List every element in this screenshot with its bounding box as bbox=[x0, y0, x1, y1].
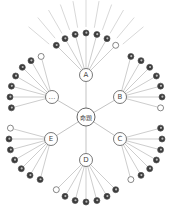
leaf-glyph-icon bbox=[10, 148, 12, 150]
leaf-glyph-icon bbox=[56, 44, 58, 46]
leaf-node-hollow bbox=[158, 105, 164, 111]
hub-to-leaf-line bbox=[89, 41, 105, 69]
top-ray-line bbox=[110, 10, 124, 33]
leaf-glyph-icon bbox=[156, 159, 158, 161]
leaf-node-hollow bbox=[113, 42, 119, 48]
hub-to-leaf-line bbox=[88, 38, 96, 69]
hub-to-leaf-line bbox=[122, 60, 130, 91]
leaf-glyph-icon bbox=[30, 59, 32, 61]
leaf-glyph-icon bbox=[64, 37, 66, 39]
hub-to-leaf-line bbox=[91, 48, 114, 71]
center-node: 命題 bbox=[77, 108, 95, 126]
leaf-node-hollow bbox=[53, 187, 59, 193]
center-to-hub-line bbox=[58, 100, 79, 112]
leaf-glyph-icon bbox=[64, 195, 66, 197]
hub-label: E bbox=[49, 135, 53, 143]
leaf-glyph-icon bbox=[160, 85, 162, 87]
leaf-glyph-icon bbox=[161, 96, 163, 98]
hub-to-leaf-line bbox=[42, 60, 50, 91]
hub-to-leaf-line bbox=[76, 166, 84, 197]
hub-to-leaf-line bbox=[15, 99, 46, 107]
top-ray-line bbox=[102, 5, 111, 30]
leaf-glyph-icon bbox=[74, 33, 76, 35]
leaf-glyph-icon bbox=[11, 106, 13, 108]
hub-to-leaf-line bbox=[125, 144, 148, 167]
hub-to-leaf-line bbox=[14, 141, 45, 149]
leaf-glyph-icon bbox=[9, 96, 11, 98]
hub-to-leaf-line bbox=[25, 70, 48, 93]
leaf-glyph-icon bbox=[21, 167, 23, 169]
leaf-glyph-icon bbox=[85, 201, 87, 203]
leaf-glyph-icon bbox=[156, 75, 158, 77]
leaf-glyph-icon bbox=[85, 32, 87, 34]
hub-label: B bbox=[118, 93, 123, 101]
diagram-canvas: ABCDE… 命題 bbox=[0, 0, 171, 211]
top-ray-line bbox=[117, 18, 134, 39]
leaf-glyph-icon bbox=[106, 195, 108, 197]
leaf-glyph-icon bbox=[15, 75, 17, 77]
leaf-glyph-icon bbox=[39, 178, 41, 180]
center-to-hub-line bbox=[57, 122, 79, 136]
hub-to-leaf-line bbox=[14, 129, 45, 137]
leaf-glyph-icon bbox=[130, 55, 132, 57]
top-ray-line bbox=[94, 1, 99, 28]
center-to-hub-line bbox=[94, 100, 115, 112]
hub-to-leaf-line bbox=[15, 87, 46, 95]
hub-to-leaf-line bbox=[59, 48, 82, 71]
hub-to-leaf-line bbox=[125, 70, 148, 93]
top-ray-line bbox=[60, 5, 69, 30]
leaf-node-hollow bbox=[128, 177, 134, 183]
top-ray-line bbox=[29, 27, 50, 44]
leaf-glyph-icon bbox=[8, 138, 10, 140]
hub-to-leaf-line bbox=[59, 165, 82, 188]
center-label: 命題 bbox=[80, 114, 92, 122]
hub-label: … bbox=[49, 93, 56, 101]
leaf-glyph-icon bbox=[29, 174, 31, 176]
leaf-glyph-icon bbox=[96, 33, 98, 35]
leaf-glyph-icon bbox=[140, 174, 142, 176]
hub-to-leaf-line bbox=[126, 141, 157, 149]
leaf-glyph-icon bbox=[115, 188, 117, 190]
leaf-glyph-icon bbox=[149, 66, 151, 68]
hub-to-leaf-line bbox=[88, 166, 96, 197]
hub-to-leaf-line bbox=[126, 99, 157, 107]
center-to-hub-line bbox=[94, 122, 115, 136]
leaf-glyph-icon bbox=[160, 148, 162, 150]
hub-to-leaf-line bbox=[67, 166, 83, 194]
hub-to-leaf-line bbox=[89, 166, 105, 194]
hub-to-leaf-line bbox=[91, 165, 114, 188]
top-ray-line bbox=[73, 1, 78, 28]
leaf-glyph-icon bbox=[96, 199, 98, 201]
hub-to-leaf-line bbox=[41, 145, 49, 176]
leaf-glyph-icon bbox=[140, 59, 142, 61]
leaf-node-hollow bbox=[7, 125, 13, 131]
leaf-glyph-icon bbox=[160, 127, 162, 129]
hub-to-leaf-line bbox=[24, 144, 47, 167]
top-ray-line bbox=[38, 18, 55, 39]
hub-to-leaf-line bbox=[67, 41, 83, 69]
leaf-glyph-icon bbox=[22, 66, 24, 68]
top-ray-line bbox=[123, 27, 144, 44]
hub-to-leaf-line bbox=[122, 145, 130, 176]
hub-label: D bbox=[83, 156, 88, 164]
leaf-node-hollow bbox=[38, 53, 44, 59]
top-ray-line bbox=[49, 10, 63, 33]
radial-diagram: ABCDE… 命題 bbox=[0, 0, 171, 211]
hub-label: C bbox=[118, 135, 123, 143]
leaf-glyph-icon bbox=[161, 138, 163, 140]
leaf-glyph-icon bbox=[149, 167, 151, 169]
hub-label: A bbox=[84, 71, 89, 79]
leaf-glyph-icon bbox=[106, 37, 108, 39]
leaf-glyph-icon bbox=[11, 85, 13, 87]
hub-to-leaf-line bbox=[76, 38, 84, 69]
hub-to-leaf-line bbox=[126, 87, 157, 95]
leaf-glyph-icon bbox=[74, 199, 76, 201]
hub-to-leaf-line bbox=[126, 129, 157, 137]
leaf-glyph-icon bbox=[14, 159, 16, 161]
